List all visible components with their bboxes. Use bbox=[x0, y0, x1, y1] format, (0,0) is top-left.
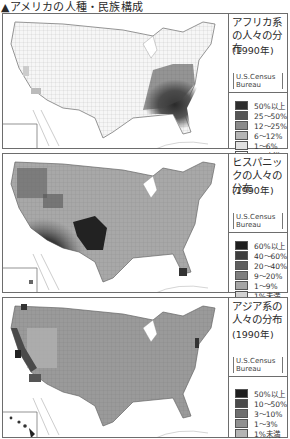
legend-swatch bbox=[235, 241, 248, 250]
legend-swatch bbox=[235, 429, 248, 438]
panel-year: (1990年) bbox=[232, 43, 274, 57]
legend-swatch bbox=[235, 419, 248, 428]
panel-title: アジア系の人々の分布 bbox=[232, 300, 290, 326]
legend-swatch bbox=[235, 251, 248, 260]
legend-swatch bbox=[235, 271, 248, 280]
legend-item: 25〜50% bbox=[235, 110, 287, 120]
us-map-graphic bbox=[3, 154, 228, 292]
source-label: U.S.Census Bureau bbox=[233, 73, 283, 89]
map-african-american bbox=[3, 14, 229, 148]
divider bbox=[229, 232, 287, 233]
legend-item: 50%以上 bbox=[235, 100, 287, 110]
legend-item: 10〜50% bbox=[235, 398, 287, 408]
legend-panel-3: アジア系の人々の分布 (1990年) U.S.Census Bureau 50%… bbox=[229, 298, 287, 437]
legend-swatch bbox=[235, 281, 248, 290]
legend-swatch bbox=[235, 409, 248, 418]
legend-item: 6〜12% bbox=[235, 130, 287, 140]
legend-item: 20〜40% bbox=[235, 260, 287, 270]
legend-item: 40〜60% bbox=[235, 250, 287, 260]
legend-item: 1〜9% bbox=[235, 280, 287, 290]
us-map-graphic bbox=[3, 14, 228, 148]
legend-item: 3〜10% bbox=[235, 408, 287, 418]
legend-label: 1%未満 bbox=[254, 428, 280, 439]
legend-swatch bbox=[235, 131, 248, 140]
legend-swatch bbox=[235, 121, 248, 130]
page-title: ▲アメリカの人種・民族構成 bbox=[1, 0, 143, 14]
legend-item: 1〜6% bbox=[235, 140, 287, 150]
divider bbox=[229, 92, 287, 93]
panel-year: (1990年) bbox=[232, 327, 274, 341]
legend-item: 50%以上 bbox=[235, 388, 287, 398]
legend-item: 9〜20% bbox=[235, 270, 287, 280]
legend-swatch bbox=[235, 261, 248, 270]
us-map-graphic bbox=[3, 298, 228, 437]
legend-swatch bbox=[235, 141, 248, 150]
legend: 50%以上25〜50%12〜25%6〜12%1〜6%1%未満 bbox=[235, 100, 287, 160]
legend-item: 60%以上 bbox=[235, 240, 287, 250]
legend-panel-2: ヒスパニックの人々の分布 (1990年) U.S.Census Bureau 6… bbox=[229, 154, 287, 292]
legend-swatch bbox=[235, 101, 248, 110]
source-label: U.S.Census Bureau bbox=[233, 357, 283, 373]
panel-asian: アジア系の人々の分布 (1990年) U.S.Census Bureau 50%… bbox=[2, 297, 288, 438]
panel-year: (1990年) bbox=[232, 183, 274, 197]
legend: 60%以上40〜60%20〜40%9〜20%1〜9%1%未満 bbox=[235, 240, 287, 300]
panel-african-american: アフリカ系の人々の分布 (1990年) U.S.Census Bureau 50… bbox=[2, 13, 288, 149]
legend: 50%以上10〜50%3〜10%1〜3%1%未満 bbox=[235, 388, 287, 438]
legend-item: 1%未満 bbox=[235, 428, 287, 438]
divider bbox=[229, 376, 287, 377]
legend-panel-1: アフリカ系の人々の分布 (1990年) U.S.Census Bureau 50… bbox=[229, 14, 287, 148]
legend-swatch bbox=[235, 389, 248, 398]
source-label: U.S.Census Bureau bbox=[233, 213, 283, 229]
legend-swatch bbox=[235, 399, 248, 408]
map-asian bbox=[3, 298, 229, 437]
legend-item: 12〜25% bbox=[235, 120, 287, 130]
map-hispanic bbox=[3, 154, 229, 292]
legend-swatch bbox=[235, 111, 248, 120]
panel-hispanic: ヒスパニックの人々の分布 (1990年) U.S.Census Bureau 6… bbox=[2, 153, 288, 293]
legend-item: 1〜3% bbox=[235, 418, 287, 428]
